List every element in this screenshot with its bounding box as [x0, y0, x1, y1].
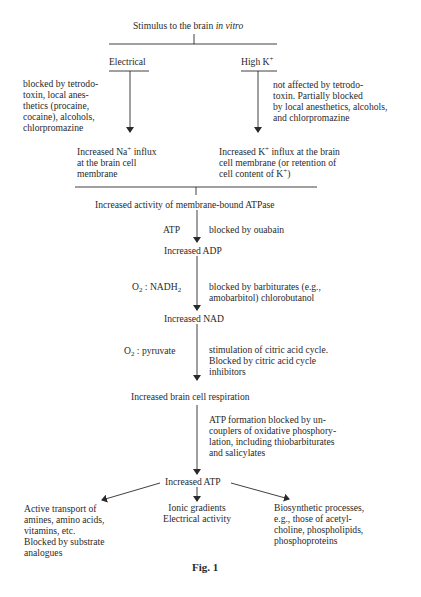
text: O [124, 345, 131, 356]
text: influx [131, 146, 156, 157]
note-line: amobarbitol) chlorobutanol [209, 292, 321, 303]
note-line: by local anesthetics, alcohols, [273, 101, 387, 112]
text: cell content of K [219, 168, 283, 179]
na-influx-result: Increased Na+ influx at the brain cell m… [77, 146, 157, 179]
note-line: lation, including thiobarbiturates [209, 436, 336, 447]
output-ionic-gradients: Ionic gradients Electrical activity [152, 502, 242, 524]
adp-node: Increased ADP [164, 245, 222, 256]
output-line: analogues [24, 547, 104, 558]
output-active-transport: Active transport of amines, amino acids,… [24, 503, 104, 558]
step1-left-atp: ATP [163, 224, 180, 235]
note-line: toxin. Partially blocked [273, 90, 387, 101]
result-line: Increased K+ influx at the brain [219, 146, 340, 157]
note-line: toxin, local anes- [23, 89, 98, 100]
note-line: stimulation of citric acid cycle. [209, 344, 328, 355]
respiration-node: Increased brain cell respiration [131, 391, 250, 402]
high-k-text: High K [241, 56, 270, 67]
output-line: phosphoproteins [274, 535, 364, 546]
output-line: Biosynthetic processes, [274, 502, 364, 513]
result-line: cell membrane (or retention of [219, 157, 340, 168]
text: Increased K [219, 146, 265, 157]
high-k-sup: + [270, 55, 274, 63]
output-line: Active transport of [24, 503, 104, 514]
note-line: blocked by barbiturates (e.g., [209, 281, 321, 292]
atpase-activity-node: Increased activity of membrane-bound ATP… [95, 199, 275, 210]
note-line: and chlorpromazine [273, 112, 387, 123]
output-line: choline, phospholipids, [274, 524, 364, 535]
text: : pyruvate [134, 345, 175, 356]
text: Increased Na [77, 146, 127, 157]
result-line: at the brain cell [77, 157, 157, 168]
note-line: couplers of oxidative phosphory- [209, 425, 336, 436]
nad-node: Increased NAD [164, 313, 224, 324]
note-line: inhibitors [209, 366, 328, 377]
note-line: thetics (procaine, [23, 100, 98, 111]
figure-caption: Fig. 1 [192, 561, 218, 573]
step2-left-o2-nadh2: O2 : NADH2 [132, 281, 181, 292]
root-text: Stimulus to the brain [133, 20, 216, 31]
output-line: amines, amino acids, [24, 514, 104, 525]
note-line: chlorpromazine [23, 122, 98, 133]
text: ) [287, 168, 290, 179]
branch-high-k-label: High K+ [241, 56, 273, 67]
branch-electrical-label: Electrical [109, 56, 146, 67]
note-line: Blocked by citric acid cycle [209, 355, 328, 366]
note-line: blocked by ouabain [209, 224, 284, 235]
step3-citric-acid-note: stimulation of citric acid cycle. Blocke… [209, 344, 328, 377]
output-biosynthetic-processes: Biosynthetic processes, e.g., those of a… [274, 502, 364, 546]
note-line: cocaine), alcohols, [23, 111, 98, 122]
output-line: Ionic gradients [152, 502, 242, 513]
step4-uncoupler-note: ATP formation blocked by un- couplers of… [209, 414, 336, 458]
step2-barbiturate-note: blocked by barbiturates (e.g., amobarbit… [209, 281, 321, 303]
step3-left-o2-pyruvate: O2 : pyruvate [124, 345, 175, 356]
result-line: Increased Na+ influx [77, 146, 157, 157]
note-line: not affected by tetrodo- [273, 79, 387, 90]
electrical-blocker-note: blocked by tetrodo- toxin, local anes- t… [23, 78, 98, 133]
k-influx-result: Increased K+ influx at the brain cell me… [219, 146, 340, 179]
note-line: and salicylates [209, 447, 336, 458]
result-line: cell content of K+) [219, 168, 340, 179]
text: : NADH [142, 281, 177, 292]
result-line: membrane [77, 168, 157, 179]
root-italic: in vitro [216, 20, 244, 31]
note-line: blocked by tetrodo- [23, 78, 98, 89]
note-line: ATP formation blocked by un- [209, 414, 336, 425]
text: influx at the brain [269, 146, 340, 157]
text: O [132, 281, 139, 292]
high-k-blocker-note: not affected by tetrodo- toxin. Partiall… [273, 79, 387, 123]
output-line: vitamins, etc. [24, 525, 104, 536]
atp-node: Increased ATP [165, 476, 221, 487]
output-line: Electrical activity [152, 513, 242, 524]
output-line: Blocked by substrate [24, 536, 104, 547]
output-line: e.g., those of acetyl- [274, 513, 364, 524]
step1-ouabain-note: blocked by ouabain [209, 224, 284, 235]
root-stimulus-label: Stimulus to the brain in vitro [133, 20, 243, 31]
sub: 2 [178, 286, 182, 294]
